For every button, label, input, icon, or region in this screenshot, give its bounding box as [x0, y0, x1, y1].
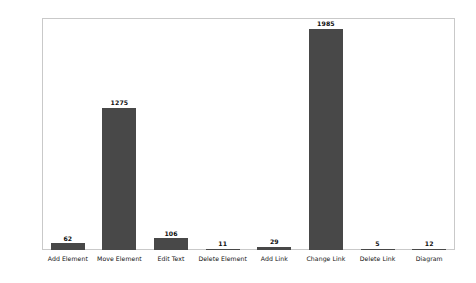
y-axis: 025050075010001250150017502000 [0, 0, 42, 283]
bar-slot: 62 [51, 18, 85, 250]
bar-value-label: 12 [425, 240, 434, 247]
bar-slot: 29 [257, 18, 291, 250]
bar-value-label: 106 [164, 230, 177, 237]
bar[interactable] [309, 29, 343, 250]
bar-slot: 5 [361, 18, 395, 250]
x-axis-tick-label: Change Link [306, 255, 345, 262]
bar[interactable] [102, 108, 136, 250]
x-axis-tick-label: Add Element [48, 255, 88, 262]
bar[interactable] [51, 243, 85, 250]
bar-slot: 11 [206, 18, 240, 250]
bar-value-label: 5 [375, 240, 379, 247]
x-axis-tick-label: Add Link [261, 255, 288, 262]
bar-slot: 12 [412, 18, 446, 250]
bar[interactable] [154, 238, 188, 250]
bar-value-label: 62 [63, 235, 72, 242]
bar-slot: 1275 [102, 18, 136, 250]
bars-container: 62127510611291985512 [42, 18, 455, 250]
bar-value-label: 11 [218, 240, 227, 247]
x-axis-tick-label: Delete Link [360, 255, 396, 262]
bar-value-label: 1985 [317, 20, 335, 27]
x-axis-tick-label: Move Element [97, 255, 142, 262]
bar-value-label: 29 [270, 238, 279, 245]
bar-chart-figure: 025050075010001250150017502000 621275106… [0, 0, 476, 283]
bar-value-label: 1275 [111, 99, 129, 106]
x-axis-tick-label: Delete Element [198, 255, 247, 262]
x-axis: Add ElementMove ElementEdit TextDelete E… [42, 250, 455, 283]
x-axis-tick-label: Edit Text [158, 255, 185, 262]
x-axis-tick-label: Diagram [416, 255, 443, 262]
bar-slot: 106 [154, 18, 188, 250]
bar-slot: 1985 [309, 18, 343, 250]
